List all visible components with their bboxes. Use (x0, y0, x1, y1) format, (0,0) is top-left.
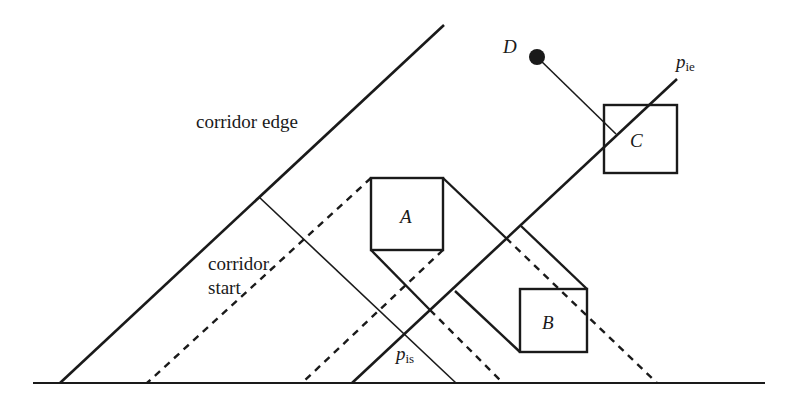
p-ie-subscript: ie (686, 59, 695, 74)
box-b-label: B (542, 313, 554, 332)
box-a-label: A (400, 207, 412, 226)
p-is-main: p (396, 343, 406, 364)
b-top-right-sweep (521, 226, 587, 289)
corridor-start-label-line2: start (208, 278, 241, 297)
b-upper-dashed-right (506, 238, 657, 383)
corridor-start-line (259, 197, 456, 383)
p-is-subscript: is (406, 351, 415, 366)
p-ie-label: pie (676, 52, 695, 71)
point-d-label: D (503, 37, 517, 56)
solid-lines (60, 25, 677, 383)
corridor-edge-line (60, 25, 444, 383)
b-bottom-left-sweep (455, 291, 520, 352)
box-c-label: C (630, 131, 643, 150)
p-ie-main: p (676, 51, 686, 72)
p-is-label: pis (396, 344, 414, 363)
corridor-start-label-line1: corridor (208, 254, 269, 273)
a-top-right-sweep (443, 178, 506, 238)
point-d-dot (529, 49, 545, 65)
a-top-left-dashed (147, 178, 371, 383)
a-bottom-left-sweep (371, 250, 430, 310)
p-ie-path-line (352, 79, 677, 383)
corridor-edge-label: corridor edge (196, 112, 298, 131)
a-lower-dashed-right (430, 310, 503, 383)
